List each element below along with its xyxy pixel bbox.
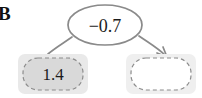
edge-curve-source bbox=[48, 37, 72, 54]
diagram-figure: B 1.4 −0.7 bbox=[0, 0, 202, 98]
node-target-shape[interactable] bbox=[131, 58, 191, 90]
panel-tag: B bbox=[0, 3, 11, 24]
edge-weight-label: −0.7 bbox=[89, 16, 122, 36]
diagram-canvas: B 1.4 −0.7 bbox=[0, 0, 202, 98]
edge-curve-target bbox=[139, 36, 166, 56]
node-source-label: 1.4 bbox=[42, 65, 64, 84]
